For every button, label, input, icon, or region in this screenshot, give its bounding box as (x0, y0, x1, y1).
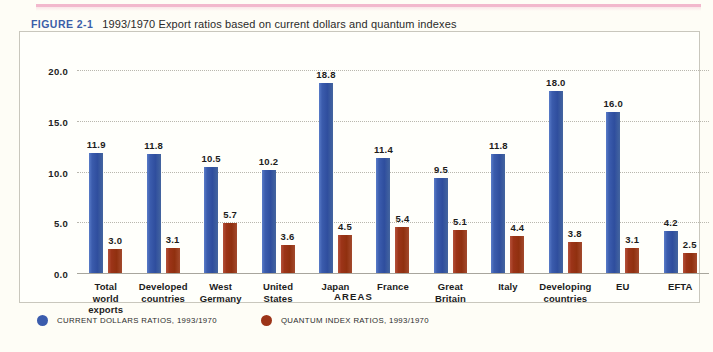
figure-header: FIGURE 2-11993/1970 Export ratios based … (31, 14, 457, 32)
bar-quantum-index: 4.5 (338, 235, 352, 274)
legend-item: CURRENT DOLLARS RATIOS, 1993/1970 (37, 315, 217, 326)
bar-value-label: 5.7 (223, 209, 237, 220)
bar-quantum-index: 5.7 (223, 223, 237, 274)
category-label-line: exports (69, 304, 143, 316)
bar-group: 10.55.7WestGermany (192, 71, 249, 274)
bar-value-label: 3.0 (108, 235, 122, 246)
bar-value-label: 10.2 (259, 156, 279, 167)
y-axis-tick-label: 0.0 (54, 269, 68, 280)
legend-swatch-circle-icon (37, 315, 48, 326)
bar-value-label: 3.6 (281, 231, 295, 242)
legend-swatch-circle-icon (261, 315, 272, 326)
bar-value-label: 3.1 (166, 234, 180, 245)
bar-value-label: 4.2 (664, 217, 678, 228)
bar-quantum-index: 5.1 (453, 230, 467, 274)
bar-quantum-index: 2.5 (683, 253, 697, 274)
bar-value-label: 4.4 (510, 222, 524, 233)
bar-quantum-index: 4.4 (510, 236, 524, 274)
bar-group: 18.03.8Developingcountries (537, 71, 594, 274)
plot-area: 0.05.010.015.020.0 11.93.0Totalworldexpo… (77, 71, 709, 274)
bar-group: 4.22.5EFTA (652, 71, 709, 274)
bar-value-label: 11.8 (144, 140, 163, 151)
x-axis-title: AREAS (0, 291, 707, 302)
bar-current-dollars: 9.5 (434, 178, 448, 274)
bar-value-label: 3.1 (625, 234, 639, 245)
bar-value-label: 5.1 (453, 216, 467, 227)
y-axis-tick-label: 10.0 (48, 167, 68, 178)
bar-current-dollars: 11.8 (491, 154, 505, 274)
bar-group: 10.23.6UnitedStates (249, 71, 306, 274)
bar-value-label: 18.8 (316, 69, 336, 80)
bar-quantum-index: 3.0 (108, 249, 122, 274)
bar-group: 9.55.1GreatBritain (422, 71, 479, 274)
bar-value-label: 11.9 (87, 139, 106, 150)
chart-legend: CURRENT DOLLARS RATIOS, 1993/1970QUANTUM… (37, 315, 429, 326)
bar-value-label: 2.5 (683, 239, 697, 250)
y-axis-tick-label: 5.0 (54, 218, 68, 229)
bar-current-dollars: 18.0 (549, 91, 563, 274)
bar-value-label: 10.5 (201, 153, 221, 164)
y-axis-tick-label: 20.0 (48, 66, 68, 77)
bar-group: 18.84.5Japan (307, 71, 364, 274)
bar-quantum-index: 3.6 (281, 245, 295, 274)
bar-current-dollars: 4.2 (664, 231, 678, 274)
legend-label: QUANTUM INDEX RATIOS, 1993/1970 (281, 316, 429, 325)
bar-group: 11.84.4Italy (479, 71, 536, 274)
bar-value-label: 5.4 (396, 213, 410, 224)
decorative-top-rule (36, 4, 701, 7)
bar-quantum-index: 3.1 (166, 248, 180, 274)
bar-current-dollars: 11.8 (147, 154, 161, 274)
bar-quantum-index: 5.4 (395, 227, 409, 274)
bar-group: 11.93.0Totalworldexports (77, 71, 134, 274)
figure-title: 1993/1970 Export ratios based on current… (102, 18, 456, 30)
bar-quantum-index: 3.1 (625, 248, 639, 274)
bar-value-label: 9.5 (434, 164, 448, 175)
bar-value-label: 11.4 (374, 144, 393, 155)
bar-current-dollars: 16.0 (606, 112, 620, 274)
bar-current-dollars: 10.5 (204, 167, 218, 274)
x-axis-baseline (77, 273, 709, 274)
legend-item: QUANTUM INDEX RATIOS, 1993/1970 (261, 315, 429, 326)
bar-value-label: 4.5 (338, 221, 352, 232)
bar-value-label: 11.8 (489, 140, 508, 151)
legend-label: CURRENT DOLLARS RATIOS, 1993/1970 (57, 316, 217, 325)
bar-quantum-index: 3.8 (568, 242, 582, 274)
bar-current-dollars: 18.8 (319, 83, 333, 274)
bar-group: 16.03.1EU (594, 71, 651, 274)
y-axis-tick-label: 15.0 (48, 116, 68, 127)
bar-group: 11.45.4France (364, 71, 421, 274)
bar-value-label: 3.8 (568, 228, 582, 239)
figure-number-label: FIGURE 2-1 (31, 18, 93, 30)
bar-group: 11.83.1Developedcountries (134, 71, 191, 274)
bar-value-label: 18.0 (546, 77, 566, 88)
bar-current-dollars: 11.4 (376, 158, 390, 274)
bar-current-dollars: 11.9 (89, 153, 103, 274)
bar-value-label: 16.0 (604, 98, 624, 109)
chart-frame: 0.05.010.015.020.0 11.93.0Totalworldexpo… (19, 31, 700, 303)
bar-current-dollars: 10.2 (262, 170, 276, 274)
